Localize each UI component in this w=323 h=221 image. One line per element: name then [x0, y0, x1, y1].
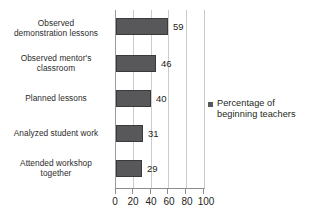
- x-tick-label-40: 40: [145, 196, 156, 208]
- value-label-3: 31: [148, 128, 159, 139]
- value-label-1: 46: [161, 58, 172, 69]
- plot-area: 59 46 40 31 29: [115, 10, 205, 189]
- legend-entry-label-line2: beginning teachers: [217, 109, 296, 120]
- x-tick-label-100: 100: [198, 196, 215, 208]
- category-label-1: Observed mentor's classroom: [0, 53, 112, 73]
- x-axis-ticks: [115, 189, 204, 194]
- x-tick-label-20: 20: [127, 196, 138, 208]
- category-label-3: Analyzed student work: [0, 128, 112, 138]
- x-tick-label-0: 0: [112, 196, 118, 208]
- bar-2: [116, 90, 151, 107]
- category-label-0-line2: demonstration lessons: [0, 28, 112, 38]
- x-tick-20: [132, 189, 133, 194]
- x-tick-60: [167, 189, 168, 194]
- category-label-0-line1: Observed: [0, 18, 112, 28]
- category-label-1-line1: Observed mentor's: [0, 53, 112, 63]
- bar-4: [116, 160, 142, 177]
- bar-0: [116, 18, 168, 35]
- x-tick-80: [185, 189, 186, 194]
- bar-1: [116, 55, 156, 72]
- gridline-60: [168, 10, 169, 188]
- legend-swatch-icon: [208, 102, 213, 107]
- legend-entry-label: Percentage of beginning teachers: [217, 98, 296, 120]
- x-tick-label-80: 80: [181, 196, 192, 208]
- category-label-2: Planned lessons: [0, 93, 112, 103]
- x-axis-labels: 0 20 40 60 80 100: [0, 196, 323, 212]
- category-label-1-line2: classroom: [0, 63, 112, 73]
- category-label-0: Observed demonstration lessons: [0, 18, 112, 38]
- value-label-0: 59: [173, 21, 184, 32]
- category-label-2-line1: Planned lessons: [0, 93, 112, 103]
- x-tick-label-60: 60: [163, 196, 174, 208]
- category-label-4-line1: Attended workshop: [0, 158, 112, 168]
- category-label-4-line2: together: [0, 168, 112, 178]
- x-tick-40: [150, 189, 151, 194]
- bar-3: [116, 125, 143, 142]
- x-tick-0: [115, 189, 116, 194]
- value-label-2: 40: [156, 93, 167, 104]
- chart-legend: Percentage of beginning teachers: [208, 98, 321, 120]
- category-label-4: Attended workshop together: [0, 158, 112, 178]
- category-label-3-line1: Analyzed student work: [0, 128, 112, 138]
- legend-entry-label-line1: Percentage of: [217, 98, 296, 109]
- x-tick-100: [203, 189, 204, 194]
- bar-chart: Observed demonstration lessons Observed …: [0, 0, 323, 221]
- category-axis-labels: Observed demonstration lessons Observed …: [0, 10, 112, 188]
- value-label-4: 29: [147, 163, 158, 174]
- gridline-80: [186, 10, 187, 188]
- gridline-40: [151, 10, 152, 188]
